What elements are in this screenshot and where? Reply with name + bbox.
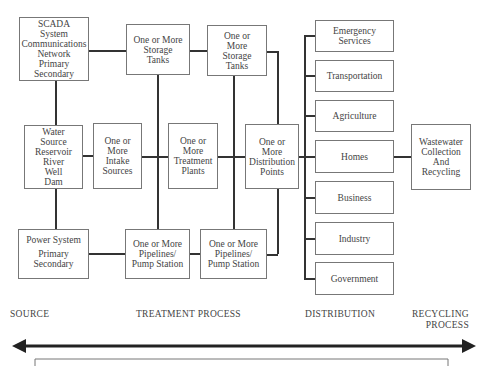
double-headed-arrow-icon xyxy=(0,0,484,366)
